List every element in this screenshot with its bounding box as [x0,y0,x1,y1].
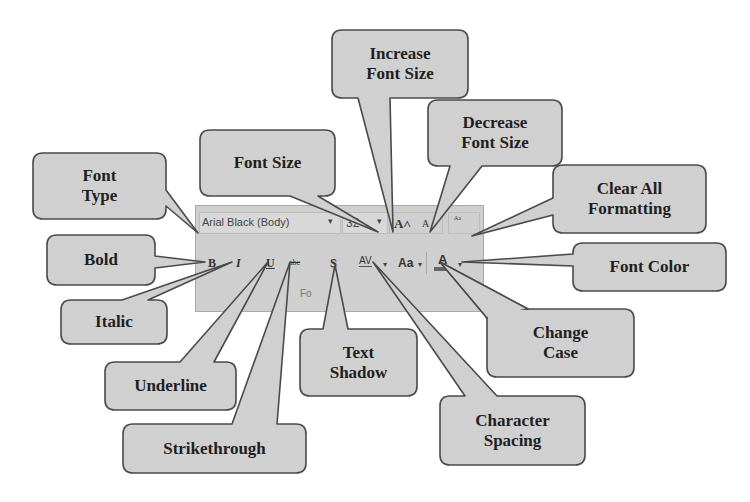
font-ribbon-diagram: Arial Black (Body) ▾ 32 ▾ A˄ A ᴬᵃ B I U … [0,0,750,502]
callout-strikethrough-line1: Strikethrough [163,439,266,459]
callout-font-type-line2: Type [82,186,118,206]
callout-font-size-line1: Font Size [234,153,302,173]
callout-font-size: Font Size [200,130,335,196]
callout-text-shadow-line2: Shadow [330,363,388,383]
callout-character-spacing-line2: Spacing [475,431,550,451]
callout-change-case-line2: Case [533,343,589,363]
callout-underline-line1: Underline [134,376,207,396]
callout-increase-font-size: IncreaseFont Size [332,30,468,98]
callout-text-shadow: TextShadow [300,329,417,396]
callout-font-color: Font Color [573,243,726,291]
callout-italic: Italic [61,300,167,344]
callout-decrease-line2: Font Size [461,133,529,153]
callout-font-type: FontType [33,153,166,219]
callout-character-spacing: CharacterSpacing [440,396,585,465]
callout-text-shadow-line1: Text [330,343,388,363]
callout-font-type-line1: Font [82,166,118,186]
callout-change-case-line1: Change [533,323,589,343]
callout-bold: Bold [47,235,155,285]
callout-clear-line2: Formatting [588,199,671,219]
callout-increase-line1: Increase [366,44,434,64]
callout-underline: Underline [105,362,236,410]
callout-strikethrough: Strikethrough [123,424,306,473]
callout-decrease-line1: Decrease [461,113,529,133]
callout-increase-line2: Font Size [366,64,434,84]
callout-clear-all-formatting: Clear AllFormatting [553,165,706,233]
callout-italic-line1: Italic [95,312,133,332]
callout-font-color-line1: Font Color [610,257,690,277]
callout-clear-line1: Clear All [588,179,671,199]
callout-bold-line1: Bold [84,250,118,270]
callout-change-case: ChangeCase [487,309,634,377]
callout-character-spacing-line1: Character [475,411,550,431]
callout-decrease-font-size: DecreaseFont Size [428,100,562,166]
